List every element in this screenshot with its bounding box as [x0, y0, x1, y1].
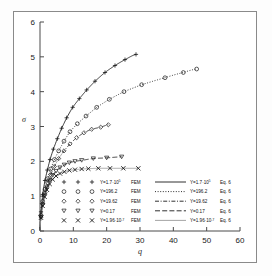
y-axis-label: σ [22, 115, 27, 124]
legend-item-eq6-3[interactable]: Y=0.17Eq. 6 [155, 209, 231, 214]
legend-item-fem-4[interactable]: Y=1.96·10-7FEM [62, 218, 141, 224]
y-tick-label: 1 [31, 192, 36, 201]
x-tick-label: 20 [102, 236, 111, 245]
x-tick-label: 60 [236, 236, 245, 245]
legend-method-eq6-4: Eq. 6 [220, 218, 231, 223]
data-point-cross [58, 171, 62, 175]
legend-label-fem-4: Y=1.96·10-7 [100, 218, 124, 224]
data-point-diamond [106, 123, 110, 127]
y-tick-label: 0 [31, 227, 36, 236]
series-markers-4 [39, 166, 141, 220]
legend-label-fem-0: Y=1.7·105 [100, 179, 121, 185]
data-point-triangle-down [62, 209, 66, 213]
legend-label-eq6-4: Y=1.96·10-7 [190, 218, 214, 224]
data-point-circle [62, 190, 66, 194]
legend-item-fem-1[interactable]: Y=196.2FEM [62, 189, 141, 194]
legend-label-eq6-3: Y=0.17 [190, 209, 205, 214]
data-point-circle [122, 90, 126, 94]
y-tick-label: 5 [31, 53, 36, 62]
series-markers-1 [39, 67, 198, 217]
x-axis-label: q [138, 247, 142, 256]
legend-label-fem-2: Y=19.62 [100, 199, 118, 204]
data-point-plus [62, 180, 66, 184]
data-point-circle [76, 190, 80, 194]
legend-method-fem-4: FEM [131, 218, 141, 223]
x-tick-label: 10 [69, 236, 78, 245]
curve-eq6-1 [40, 69, 197, 231]
data-point-plus [123, 58, 127, 62]
legend-label-eq6-0: Y=1.7·105 [190, 179, 211, 185]
data-point-plus [76, 180, 80, 184]
data-point-diamond [99, 125, 103, 129]
y-tick-label: 2 [31, 157, 36, 166]
legend-item-eq6-0[interactable]: Y=1.7·105Eq. 6 [155, 179, 231, 185]
data-point-cross [62, 218, 66, 222]
legend-item-eq6-4[interactable]: Y=1.96·10-7Eq. 6 [155, 218, 231, 224]
data-point-diamond [76, 199, 80, 203]
data-point-plus [48, 157, 52, 161]
legend-item-fem-2[interactable]: Y=19.62FEM [62, 199, 141, 204]
data-point-plus [113, 63, 117, 67]
legend-method-eq6-2: Eq. 6 [220, 199, 231, 204]
legend-label-eq6-1: Y=196.2 [190, 189, 208, 194]
data-point-plus [134, 52, 138, 56]
legend-label-fem-1: Y=196.2 [100, 189, 118, 194]
curve-eq6-0 [40, 54, 136, 231]
figure-container: 0123456 0102030405060 σ q Y=1.7·105FEMY=… [0, 0, 272, 276]
data-point-plus [55, 137, 59, 141]
data-point-diamond [62, 199, 66, 203]
data-point-triangle-down [67, 161, 71, 165]
legend-fem: Y=1.7·105FEMY=196.2FEMY=19.62FEMY=0.17FE… [62, 179, 141, 223]
data-point-circle [75, 122, 79, 126]
x-tick-label: 30 [136, 236, 145, 245]
data-point-diamond [82, 131, 86, 135]
x-tick-label: 50 [202, 236, 211, 245]
x-axis: 0102030405060 [38, 227, 245, 245]
legend-method-fem-2: FEM [131, 199, 141, 204]
legend-method-fem-3: FEM [131, 209, 141, 214]
data-point-cross [54, 174, 58, 178]
y-tick-label: 3 [31, 123, 36, 132]
data-point-circle [57, 149, 61, 153]
x-tick-label: 40 [169, 236, 178, 245]
legend-item-fem-0[interactable]: Y=1.7·105FEM [62, 179, 141, 185]
y-tick-label: 6 [31, 18, 36, 27]
data-point-triangle-down [90, 209, 94, 213]
data-point-circle [68, 130, 72, 134]
data-markers [39, 52, 199, 220]
legend-item-eq6-1[interactable]: Y=196.2Eq. 6 [155, 189, 231, 194]
legend-method-fem-0: FEM [131, 180, 141, 185]
legend-method-eq6-0: Eq. 6 [220, 180, 231, 185]
data-point-triangle-down [76, 209, 80, 213]
x-axis-ticks: 0102030405060 [38, 227, 245, 245]
chart-canvas: 0123456 0102030405060 σ q Y=1.7·105FEMY=… [0, 0, 272, 276]
data-point-cross [76, 218, 80, 222]
data-point-diamond [90, 199, 94, 203]
data-point-plus [90, 180, 94, 184]
legend-method-eq6-1: Eq. 6 [220, 189, 231, 194]
y-tick-label: 4 [31, 88, 36, 97]
curve-eq6-2 [40, 125, 108, 231]
legend-eq6: Y=1.7·105Eq. 6Y=196.2Eq. 6Y=19.62Eq. 6Y=… [155, 179, 231, 223]
legend-item-fem-3[interactable]: Y=0.17FEM [62, 209, 141, 214]
data-point-plus [51, 147, 55, 151]
series-markers-0 [39, 52, 138, 214]
legend-item-eq6-2[interactable]: Y=19.62Eq. 6 [155, 199, 231, 204]
data-point-circle [95, 105, 99, 109]
data-point-plus [60, 126, 64, 130]
legend-method-eq6-3: Eq. 6 [220, 209, 231, 214]
data-point-circle [90, 190, 94, 194]
data-point-cross [90, 218, 94, 222]
data-point-plus [65, 116, 69, 120]
legend-label-fem-3: Y=0.17 [100, 209, 115, 214]
legend-method-fem-1: FEM [131, 189, 141, 194]
legend-label-eq6-2: Y=19.62 [190, 199, 208, 204]
x-tick-label: 0 [38, 236, 43, 245]
